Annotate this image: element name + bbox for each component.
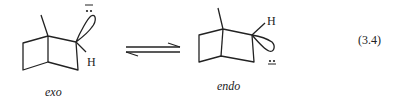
endo-c-h-bond xyxy=(252,23,265,35)
exo-label: exo xyxy=(45,85,62,99)
exo-c-h-bond xyxy=(76,42,86,52)
endo-hydrogen-label: H xyxy=(267,14,276,28)
endo-bridgehead-bond xyxy=(221,29,223,56)
exo-lone-pair-dot xyxy=(90,10,92,12)
endo-molecule xyxy=(199,8,274,62)
exo-lone-pair-dot xyxy=(86,10,88,12)
equation-number: (3.4) xyxy=(358,33,381,47)
endo-lone-pair-orbital xyxy=(252,35,274,51)
equilibrium-arrow xyxy=(126,43,180,56)
exo-hydrogen-label: H xyxy=(87,55,96,69)
exo-lone-pair-orbital xyxy=(76,15,95,42)
reaction-diagram: H exo H endo (3.4) xyxy=(0,0,405,101)
endo-label: endo xyxy=(217,79,240,93)
exo-ring-bonds xyxy=(23,15,78,70)
endo-ring-bonds xyxy=(199,8,254,62)
endo-lone-pair-dot xyxy=(273,60,275,62)
exo-molecule xyxy=(23,15,95,70)
endo-lone-pair-dot xyxy=(269,60,271,62)
